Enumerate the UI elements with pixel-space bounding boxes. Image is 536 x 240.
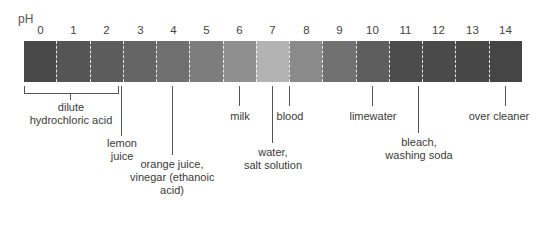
ph-segment-2 [90,41,123,82]
tick-6: 6 [223,24,256,36]
tick-9: 9 [323,24,356,36]
tick-11: 11 [389,24,422,36]
tick-14: 14 [489,24,522,36]
tick-4: 4 [157,24,190,36]
tick-12: 12 [422,24,455,36]
callout-oven-cleaner: over cleaner [462,110,536,123]
pointer-orange-juice-vinegar [172,86,173,155]
callout-dilute-hydrochloric-acid: dilute hydrochloric acid [22,101,120,127]
callout-orange-juice-vinegar: orange juice, vinegar (ethanoic acid) [130,158,214,197]
ph-segment-0 [24,41,56,82]
ph-segment-10 [356,41,389,82]
ph-segment-4 [156,41,189,82]
ph-segment-6 [223,41,256,82]
ph-segment-13 [455,41,488,82]
ph-segment-1 [56,41,89,82]
tick-10: 10 [356,24,389,36]
callout-blood: blood [272,110,308,123]
bracket-horizontal [24,93,119,94]
callout-limewater: limewater [348,110,398,123]
pointer-oven-cleaner [505,86,506,106]
ph-segment-12 [422,41,455,82]
ph-segment-9 [322,41,355,82]
callout-water-salt-solution: water, salt solution [240,146,306,172]
pointer-limewater [372,86,373,106]
tick-7: 7 [256,24,289,36]
pointer-lemon-juice [121,86,122,136]
tick-2: 2 [90,24,123,36]
tick-0: 0 [24,24,57,36]
pointer-milk [239,86,240,106]
pointer-blood [289,86,290,106]
tick-1: 1 [57,24,90,36]
tick-5: 5 [190,24,223,36]
pointer-bleach-washing-soda [418,86,419,133]
tick-13: 13 [456,24,489,36]
ph-segment-8 [289,41,322,82]
ph-segment-14 [489,41,522,82]
tick-3: 3 [124,24,157,36]
callout-milk: milk [220,110,260,123]
callout-bleach-washing-soda: bleach, washing soda [382,136,456,162]
ph-segment-11 [389,41,422,82]
ph-color-bar [24,41,522,82]
ph-segment-7 [256,41,289,82]
tick-8: 8 [290,24,323,36]
ph-segment-3 [123,41,156,82]
ph-segment-5 [189,41,222,82]
bracket-stem [70,93,71,100]
